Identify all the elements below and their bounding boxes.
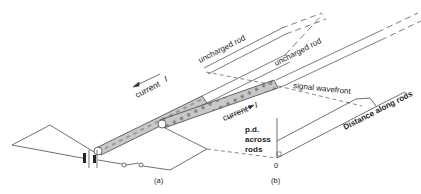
rod-a [94,14,323,155]
wavefront-label: signal wavefront [293,81,352,96]
rod-b-label: uncharged rod [273,36,323,67]
panel-b-label: (b) [271,176,281,185]
origin-label: 0 [274,161,278,170]
current-b-symbol: I [253,99,260,109]
battery-icon [83,153,86,163]
current-a-label: current [133,79,162,100]
origin-link-line [207,149,277,158]
y-axis-label-line1: p.d. [245,125,259,134]
rod-b-end-icon [158,120,166,128]
y-axis-label-line2: across [245,135,271,144]
panel-a-label: (a) [154,176,164,185]
wavefront-link-line [206,72,274,85]
y-axis-label-line3: rods [245,145,263,154]
transmission-line-diagram: uncharged rod uncharged rod current I cu… [0,0,421,194]
rod-a-end-icon [94,147,102,155]
x-axis-label: Distance along rods [342,89,415,132]
current-a-symbol: I [162,74,169,84]
rod-a-label: uncharged rod [197,33,247,64]
switch-icon [122,163,126,167]
